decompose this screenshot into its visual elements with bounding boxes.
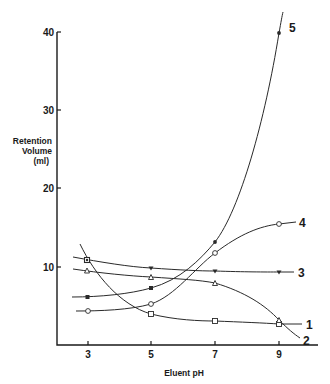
x-tick-label-3: 3: [85, 349, 91, 360]
series-4: 4: [76, 216, 306, 313]
y-axis-title-line1: Retention: [13, 136, 52, 146]
y-tick-label-30: 30: [43, 105, 55, 116]
y-axis-title-line3: (ml): [33, 156, 49, 166]
x-tick-label-9: 9: [276, 349, 282, 360]
y-tick-label-20: 20: [43, 183, 55, 194]
series-2: 2: [73, 268, 310, 348]
retention-volume-chart: 40 30 20 10 3 5 7 9 Eluent pH Retention …: [0, 0, 330, 384]
x-tick-label-7: 7: [212, 349, 218, 360]
y-tick-label-40: 40: [43, 27, 55, 38]
axes: [57, 32, 318, 345]
curve-label-1: 1: [306, 318, 313, 332]
curve-label-3: 3: [298, 266, 305, 280]
curve-label-5: 5: [289, 21, 296, 35]
series-5: 5: [72, 12, 296, 299]
x-axis-title: Eluent pH: [164, 368, 204, 378]
curve-label-4: 4: [299, 216, 306, 230]
y-tick-label-10: 10: [43, 262, 55, 273]
x-tick-label-5: 5: [148, 349, 154, 360]
y-axis-title-line2: Volume: [22, 146, 52, 156]
x-ticks: 3 5 7 9: [85, 341, 282, 360]
curve-label-2: 2: [303, 334, 310, 348]
